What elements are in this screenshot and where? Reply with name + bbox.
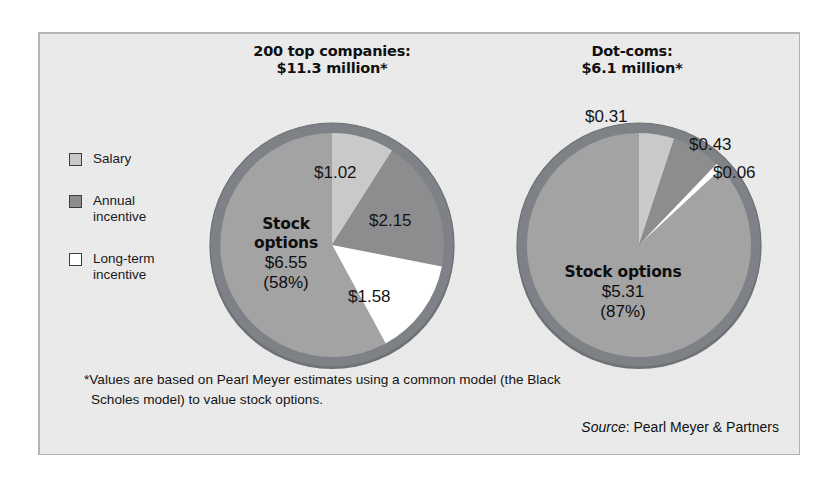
left-center-head-line1: Stock <box>226 215 346 234</box>
footnote: *Values are based on Pearl Meyer estimat… <box>84 370 764 410</box>
right-chart-title: Dot-coms: $6.1 million* <box>507 43 757 77</box>
right-label-annual-incentive: $0.43 <box>689 135 732 155</box>
right-center-label: Stock options $5.31 (87%) <box>541 263 705 322</box>
footnote-line2: Scholes model) to value stock options. <box>84 390 764 410</box>
left-center-head-line2: options <box>226 234 346 253</box>
legend-swatch-long-term-incentive-icon <box>69 253 82 266</box>
legend: Salary Annual incentive Long-term incent… <box>69 151 189 309</box>
left-center-percent: (58%) <box>263 273 308 292</box>
legend-label-long-term-line2: incentive <box>93 267 146 282</box>
right-label-salary: $0.31 <box>585 107 628 127</box>
source-rest: : Pearl Meyer & Partners <box>626 419 779 435</box>
right-chart-title-line1: Dot-coms: <box>507 43 757 60</box>
source-line: Source: Pearl Meyer & Partners <box>581 419 779 435</box>
right-chart-title-line2: $6.1 million* <box>507 60 757 77</box>
legend-label-long-term-incentive: Long-term incentive <box>93 251 155 283</box>
left-chart-title-line1: 200 top companies: <box>207 43 457 60</box>
left-label-annual-incentive: $2.15 <box>369 211 412 231</box>
legend-label-annual-incentive: Annual incentive <box>93 193 146 225</box>
left-label-salary: $1.02 <box>314 163 357 183</box>
left-center-label: Stock options $6.55 (58%) <box>226 215 346 293</box>
left-chart-title: 200 top companies: $11.3 million* <box>207 43 457 77</box>
chart-figure: 200 top companies: $11.3 million* Dot-co… <box>0 0 838 490</box>
left-label-long-term-incentive: $1.58 <box>348 287 391 307</box>
left-chart-title-line2: $11.3 million* <box>207 60 457 77</box>
legend-swatch-annual-incentive-icon <box>69 195 82 208</box>
legend-label-annual-line2: incentive <box>93 209 146 224</box>
footnote-line1: *Values are based on Pearl Meyer estimat… <box>84 370 764 390</box>
figure-panel: 200 top companies: $11.3 million* Dot-co… <box>38 32 800 455</box>
legend-label-long-term-line1: Long-term <box>93 251 155 266</box>
right-label-long-term-incentive: $0.06 <box>713 163 756 183</box>
legend-label-salary: Salary <box>93 151 131 167</box>
left-pie-chart: $1.02 $2.15 $1.58 Stock options $6.55 (5… <box>202 115 462 375</box>
right-center-value: $5.31 <box>602 282 645 301</box>
legend-item-annual-incentive: Annual incentive <box>69 193 189 225</box>
legend-item-salary: Salary <box>69 151 189 167</box>
right-pie-chart: $0.31 $0.43 $0.06 Stock options $5.31 (8… <box>509 115 769 375</box>
source-word: Source <box>581 419 625 435</box>
legend-label-annual-line1: Annual <box>93 193 135 208</box>
legend-item-long-term-incentive: Long-term incentive <box>69 251 189 283</box>
legend-swatch-salary-icon <box>69 153 82 166</box>
right-center-head: Stock options <box>541 263 705 282</box>
right-center-percent: (87%) <box>600 302 645 321</box>
left-center-value: $6.55 <box>265 253 308 272</box>
